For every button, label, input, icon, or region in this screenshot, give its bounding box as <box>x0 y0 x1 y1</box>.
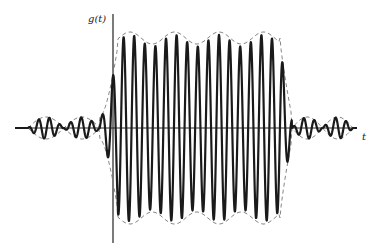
y-axis-label: g(t) <box>88 13 106 24</box>
pulse-waveform-figure: g(t) t <box>0 0 382 252</box>
x-axis-label: t <box>362 131 367 142</box>
